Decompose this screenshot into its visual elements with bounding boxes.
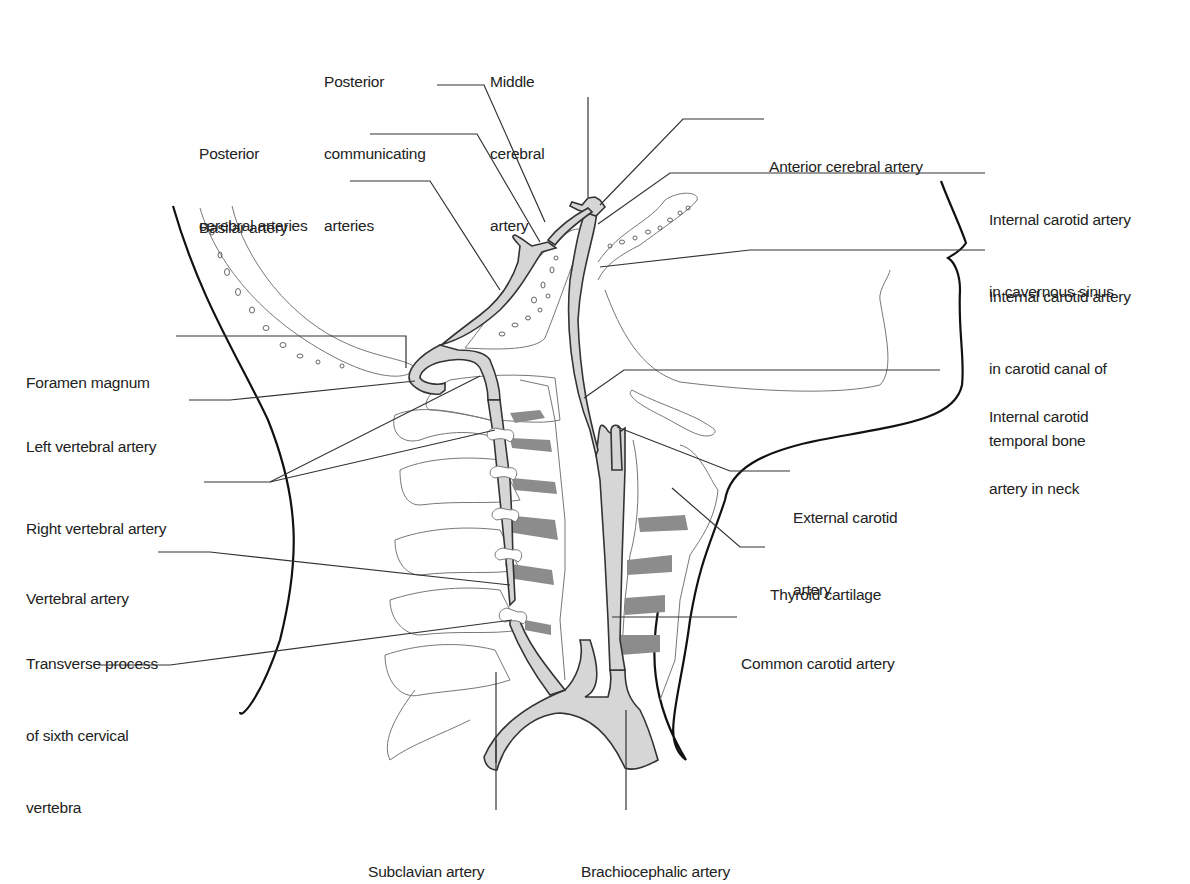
label-line: Internal carotid artery: [989, 285, 1131, 309]
label-line: cerebral: [490, 142, 544, 166]
label-anterior-cerebral-artery: Anterior cerebral artery: [769, 107, 923, 203]
leader-foramen-magnum: [176, 336, 406, 368]
label-transverse-process: Transverse process of sixth cervical ver…: [26, 604, 158, 844]
petrous-bone-pores: [608, 206, 690, 248]
label-line: Internal carotid: [989, 405, 1088, 429]
label-basilar-artery: Basilar artery: [199, 168, 288, 264]
label-line: artery: [490, 214, 544, 238]
label-line: artery in neck: [989, 477, 1088, 501]
label-line: Subclavian artery: [368, 860, 484, 884]
internal-carotid-artery: [569, 200, 598, 455]
leader-external-carotid: [617, 427, 790, 471]
subclavian-brachiocephalic-arch: [484, 640, 658, 770]
leader-ica-neck: [584, 370, 940, 398]
label-line: Right vertebral artery: [26, 517, 166, 541]
leader-vertebral: [158, 552, 510, 585]
label-line: Transverse process: [26, 652, 158, 676]
label-line: vertebra: [26, 796, 158, 820]
label-middle-cerebral-artery: Middle cerebral artery: [490, 22, 544, 262]
vertebral-artery-loop: [409, 345, 500, 400]
label-line: Common carotid artery: [741, 652, 894, 676]
label-ica-neck: Internal carotid artery in neck: [989, 357, 1088, 525]
label-line: Internal carotid artery: [989, 208, 1131, 232]
leader-anterior-cerebral: [600, 119, 764, 205]
label-subclavian-artery: Subclavian artery: [368, 812, 484, 884]
label-line: Posterior: [324, 70, 426, 94]
leader-transverse-process: [98, 620, 512, 665]
label-line: of sixth cervical: [26, 724, 158, 748]
label-line: Middle: [490, 70, 544, 94]
label-line: communicating: [324, 142, 426, 166]
label-line: Anterior cerebral artery: [769, 155, 923, 179]
petrous-temporal-bone: [598, 193, 697, 280]
label-line: Basilar artery: [199, 216, 288, 240]
leader-right-vertebral-2: [270, 430, 495, 482]
larynx-and-trachea: [620, 440, 718, 700]
back-of-neck-outline: [173, 206, 294, 714]
label-posterior-communicating-arteries: Posterior communicating arteries: [324, 22, 426, 262]
leader-ica-carotid-canal: [600, 250, 985, 267]
leader-left-vertebral: [189, 381, 415, 400]
label-line: Brachiocephalic artery: [581, 860, 730, 884]
hyoid-bone: [630, 390, 715, 436]
label-line: Posterior: [199, 142, 308, 166]
label-common-carotid-artery: Common carotid artery: [741, 604, 894, 700]
label-line: External carotid: [793, 506, 898, 530]
label-line: arteries: [324, 214, 426, 238]
mandible: [605, 270, 890, 391]
label-line: Left vertebral artery: [26, 435, 156, 459]
external-carotid-artery: [611, 425, 622, 470]
label-brachiocephalic-artery: Brachiocephalic artery: [581, 812, 730, 884]
